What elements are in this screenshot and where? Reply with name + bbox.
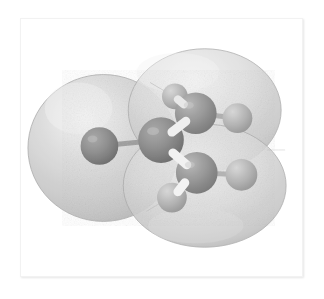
figure-root: Ball-and-stick molecular model with tran… xyxy=(0,0,324,299)
figure-frame xyxy=(20,18,303,277)
molecule-canvas xyxy=(21,19,302,276)
print-grain-overlay xyxy=(22,20,301,275)
